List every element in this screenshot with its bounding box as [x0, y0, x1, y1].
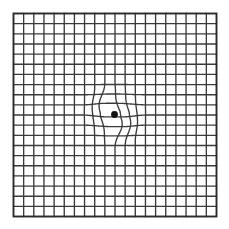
fixation-dot	[111, 111, 118, 118]
grid-line-horizontal	[14, 135, 217, 136]
fixation-dot-marker	[111, 111, 118, 118]
amsler-grid-chart	[0, 0, 229, 229]
grid-line-horizontal	[14, 94, 217, 95]
amsler-grid-svg	[0, 0, 229, 229]
